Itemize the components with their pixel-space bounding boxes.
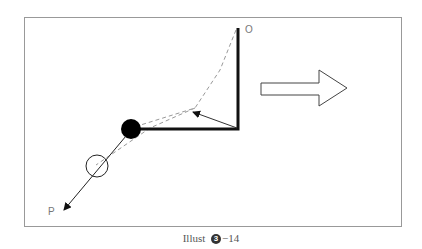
diagram-canvas: O P xyxy=(0,0,422,249)
right-arrow-icon xyxy=(261,70,347,106)
solid-ball xyxy=(121,119,141,139)
pole-arm xyxy=(131,28,238,129)
figure-caption: Illust 3−14 xyxy=(0,232,422,244)
pivot-label: O xyxy=(245,24,253,35)
rotation-arrow xyxy=(193,112,237,128)
direction-label: P xyxy=(48,206,55,217)
hollow-ball xyxy=(86,155,108,177)
caption-number-badge: 3 xyxy=(211,234,221,244)
trajectory-line xyxy=(64,136,126,210)
caption-suffix: −14 xyxy=(222,232,239,244)
figure-frame xyxy=(25,18,402,227)
dashed-path-lower xyxy=(96,108,195,165)
dashed-path-upper xyxy=(131,30,236,128)
caption-prefix: Illust xyxy=(183,232,206,244)
